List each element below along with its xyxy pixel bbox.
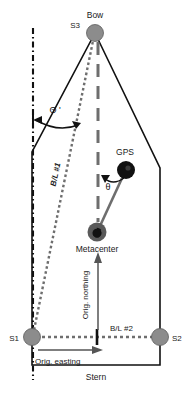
vessel-geometry-diagram: Bow S3 S1 S2 GPS Metacenter Stern Θ ' θ … [0,0,188,393]
diagram-canvas: Bow S3 S1 S2 GPS Metacenter Stern Θ ' θ … [0,0,188,393]
gps-inner-highlight [125,165,130,170]
label-stern: Stern [86,372,107,382]
label-metacenter: Metacenter [76,244,119,254]
label-theta-prime: Θ ' [49,105,61,115]
label-s3: S3 [70,21,80,30]
label-orig-easting: Orig. easting [35,357,80,366]
node-s2 [152,329,169,346]
label-s2: S2 [172,334,182,343]
node-gps [117,161,135,179]
label-theta: θ [105,182,110,192]
label-gps: GPS [116,147,134,157]
node-s1 [24,329,41,346]
label-bow: Bow [87,10,104,20]
theta-prime-arrow-left [33,116,42,124]
label-orig-northing: Orig. northing [81,271,90,319]
hull-outline [32,33,160,365]
label-s1: S1 [9,334,19,343]
node-s3 [87,25,104,42]
label-baseline-2: B/L #2 [110,324,133,333]
